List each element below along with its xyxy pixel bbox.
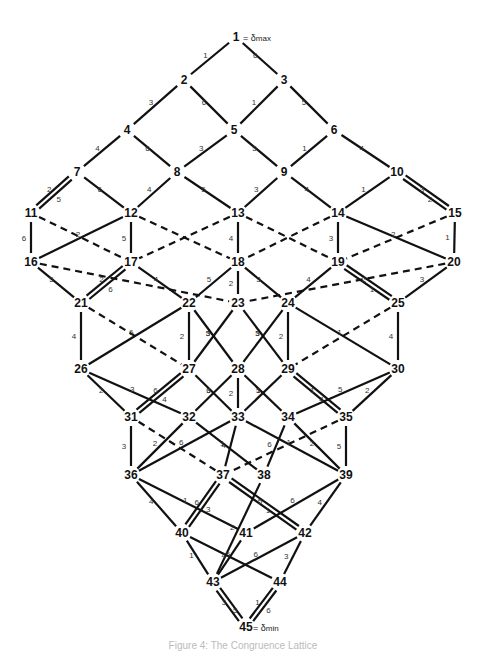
edge-2-4: [134, 86, 177, 124]
edge-32-36-label: 2: [153, 439, 158, 448]
node-38: 38: [257, 468, 271, 482]
edge-29-35-label2: 4: [319, 395, 324, 404]
edge-4-7-label: 4: [95, 144, 100, 153]
node-39: 39: [339, 468, 353, 482]
edge-8-13: [184, 177, 230, 208]
edge-5-9-label: 5: [252, 144, 257, 153]
figure-caption: Figure 4: The Congruence Lattice: [0, 640, 486, 651]
edge-36-41-label: 1: [183, 496, 188, 505]
edge-43-45-label: 3: [222, 598, 227, 607]
edge-22-26-label: 6: [129, 328, 134, 337]
edge-11-16-label: 6: [22, 234, 27, 243]
edge-41-43-label: 4: [221, 551, 226, 560]
edge-5-8-label: 3: [199, 144, 204, 153]
node-40: 40: [175, 526, 189, 540]
node-35: 35: [339, 410, 353, 424]
edge-34-38-label: 6: [267, 440, 272, 449]
edge-19-25-label: 2: [362, 275, 367, 284]
edge-39-41-label: 6: [290, 496, 295, 505]
edge-1-3: [243, 43, 278, 74]
edge-17-21-label2: 6: [108, 285, 113, 294]
edge-2-5: [190, 86, 227, 123]
edge-13-18-label: 4: [229, 234, 234, 243]
node-1: 1: [233, 30, 240, 44]
edge-4-8: [134, 136, 170, 166]
node-26: 26: [74, 362, 88, 376]
edge-6-9-label: 1: [302, 144, 307, 153]
edge-37-40-label: 6: [195, 498, 200, 507]
edge-3-6-label: 5: [302, 98, 307, 107]
edge-4-8-label: 6: [145, 144, 150, 153]
edge-37-42-label: 5: [258, 497, 263, 506]
node-9: 9: [281, 165, 288, 179]
node-3: 3: [281, 73, 288, 87]
edge-29-35-label: 1: [310, 386, 315, 395]
node-31: 31: [124, 410, 138, 424]
edge-16-23: [40, 264, 229, 302]
lattice-diagram: 1636154635142564534132625432152645234213…: [0, 0, 486, 651]
edge-34-39: [294, 423, 339, 468]
edge-7-11-b: [36, 176, 69, 205]
node-15: 15: [448, 206, 462, 220]
edge-18-22-label: 5: [207, 275, 212, 284]
node-21: 21: [74, 296, 88, 310]
edge-5-8: [184, 135, 227, 166]
edge-17-22: [138, 267, 181, 298]
edge-19-24: [295, 268, 331, 298]
node-8: 8: [174, 165, 181, 179]
edge-29-33-label: 5: [256, 386, 261, 395]
edge-9-13-label: 3: [254, 185, 259, 194]
edge-14-19-label: 3: [329, 234, 334, 243]
node-24: 24: [281, 296, 295, 310]
edge-43-45-label2: 5: [233, 606, 238, 615]
edge-37-42-label2: 1: [266, 506, 271, 515]
node-13: 13: [231, 206, 245, 220]
edge-1-3-label: 6: [253, 51, 258, 60]
edge-42-44-label: 3: [284, 552, 289, 561]
edge-32-36: [137, 423, 182, 468]
node-33: 33: [231, 410, 245, 424]
edge-28-33-label: 2: [229, 389, 234, 398]
edge-6-10: [341, 135, 389, 167]
edge-33-37-label: 4: [221, 441, 226, 450]
edge-10-15-b: [403, 179, 446, 210]
edge-6-9: [291, 136, 327, 166]
node-44: 44: [273, 575, 287, 589]
node-34: 34: [281, 410, 295, 424]
edge-42-43-label: 6: [253, 550, 258, 559]
edge-30-34-label: 5: [338, 385, 343, 394]
edge-23-27-label: 5: [206, 329, 211, 338]
edge-35-37: [231, 421, 338, 471]
node-6: 6: [331, 123, 338, 137]
edge-10-15-label2: 2: [428, 195, 433, 204]
edge-33-39-label: 1: [286, 438, 291, 447]
edge-26-31-label: 2: [99, 386, 104, 395]
edge-8-12-label: 4: [147, 185, 152, 194]
node-17: 17: [124, 255, 138, 269]
edge-28-32-label: 6: [206, 386, 211, 395]
node-45: 45: [239, 620, 253, 634]
edge-9-14: [291, 177, 331, 207]
edge-18-23-label: 2: [229, 279, 234, 288]
edge-17-21-b: [87, 266, 123, 296]
node-43: 43: [206, 575, 220, 589]
edge-24-28-label: 5: [255, 329, 260, 338]
edge-15-20: [454, 222, 455, 253]
node-5: 5: [231, 123, 238, 137]
node-2: 2: [181, 73, 188, 87]
node-29: 29: [281, 362, 295, 376]
edge-3-5-label: 1: [252, 98, 257, 107]
edge-18-22: [196, 268, 231, 297]
node-20: 20: [447, 255, 461, 269]
edge-2-4-label: 3: [149, 98, 154, 107]
node-22: 22: [182, 296, 196, 310]
edge-25-30-label: 4: [389, 332, 394, 341]
edge-38-43-label: 2: [230, 523, 235, 532]
edge-40-43-label: 1: [189, 551, 194, 560]
edge-1-2: [191, 43, 229, 75]
edge-9-13: [245, 178, 278, 207]
edge-1-2-label: 1: [203, 51, 208, 60]
edge-14-20-label: 2: [391, 230, 396, 239]
node-30: 30: [391, 362, 405, 376]
edge-19-25-label2: 1: [370, 285, 375, 294]
